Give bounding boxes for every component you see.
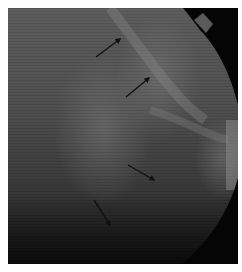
arrow-icon: [126, 78, 149, 97]
arrow-icon: [128, 165, 154, 180]
light-streak-upper: [110, 8, 205, 120]
arrow-icon: [94, 200, 110, 225]
light-streak-right: [150, 110, 228, 140]
arrow-icon: [96, 39, 120, 57]
mask-lower-right: [182, 178, 238, 264]
bright-edge-band: [226, 120, 238, 190]
image-overlay: [0, 0, 242, 272]
